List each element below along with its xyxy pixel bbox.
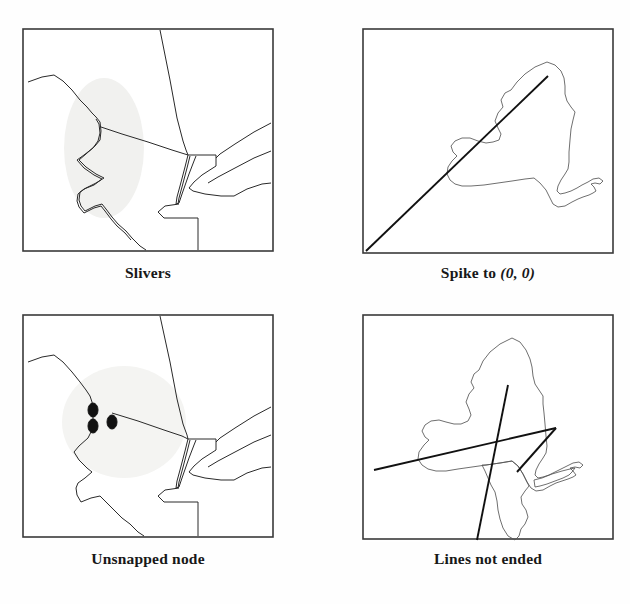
- node-marker-upper: [88, 403, 98, 417]
- figure-canvas: Slivers Spike to (0, 0): [0, 0, 630, 604]
- spike-map: [362, 28, 614, 256]
- node-marker-detached: [107, 415, 117, 429]
- panel-slivers-frame: [22, 28, 274, 254]
- panel-lines-not-ended-frame: [362, 314, 614, 542]
- panel-unsnapped-caption: Unsnapped node: [22, 550, 274, 568]
- unsnapped-map: [22, 314, 274, 540]
- panel-slivers-caption: Slivers: [22, 264, 274, 282]
- caption-text-main: Slivers: [125, 264, 171, 281]
- lines-not-ended-map: [362, 314, 614, 542]
- caption-text-main: Unsnapped node: [91, 550, 205, 567]
- panel-border: [363, 315, 613, 539]
- panel-unsnapped-frame: [22, 314, 274, 540]
- caption-text-italic: (0, 0): [500, 264, 535, 281]
- node-marker-lower: [88, 419, 98, 433]
- panel-border: [363, 29, 613, 253]
- caption-text-main: Spike to: [441, 264, 501, 281]
- caption-text-main: Lines not ended: [434, 550, 542, 567]
- slivers-map: [22, 28, 274, 254]
- panel-border: [23, 29, 273, 251]
- highlight-ellipse: [64, 78, 144, 218]
- panel-lines-not-ended-caption: Lines not ended: [362, 550, 614, 568]
- panel-spike-caption: Spike to (0, 0): [362, 264, 614, 282]
- panel-spike-frame: [362, 28, 614, 256]
